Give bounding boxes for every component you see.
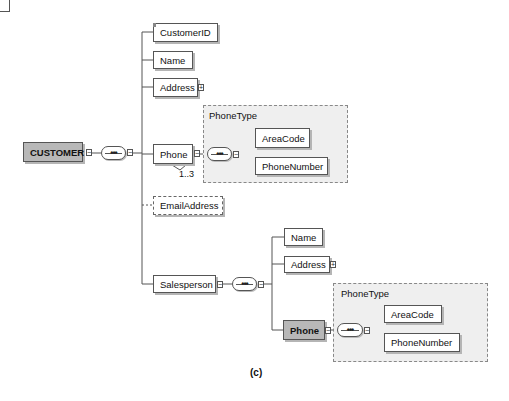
sequence-compositor[interactable]: ••• [207,147,232,161]
sequence-compositor[interactable]: ••• [232,277,257,291]
salesperson-phone-element[interactable]: Phone [283,320,325,340]
name-label: Name [160,55,185,66]
collapse-icon[interactable]: − [325,327,331,334]
phonenumber-label: PhoneNumber [262,161,323,172]
collapse-icon[interactable]: − [217,281,223,288]
emailaddress-element[interactable]: EmailAddress [153,196,223,215]
expand-icon[interactable]: + [330,261,336,268]
expand-icon[interactable]: + [198,84,204,91]
phone-label: Phone [160,149,187,160]
sequence-icon: ••• [347,327,353,333]
address-label: Address [160,82,195,93]
phonetype-label: PhoneType [341,288,389,299]
sequence-icon: ••• [241,281,247,287]
phone-element[interactable]: Phone [153,144,193,164]
emailaddress-label: EmailAddress [160,200,219,211]
salesperson-areacode-element[interactable]: AreaCode [384,305,442,323]
salesperson-phonenumber-element[interactable]: PhoneNumber [384,333,460,352]
customer-label: CUSTOMER [30,147,84,158]
collapse-icon[interactable]: − [364,327,370,334]
name-label: Name [291,232,316,243]
collapse-icon[interactable]: − [194,150,200,157]
collapse-icon[interactable]: − [258,281,264,288]
phonenumber-element[interactable]: PhoneNumber [255,157,328,175]
name-element[interactable]: Name [153,51,193,69]
customerid-label: CustomerID [160,27,211,38]
address-label: Address [291,259,326,270]
phonenumber-label: PhoneNumber [391,337,452,348]
customer-element[interactable]: CUSTOMER [23,142,83,162]
areacode-label: AreaCode [391,309,434,320]
sequence-compositor[interactable]: ••• [101,146,126,160]
areacode-element[interactable]: AreaCode [255,128,310,148]
customerid-element[interactable]: CustomerID [153,23,218,42]
phone-label: Phone [290,325,319,336]
sequence-compositor[interactable]: ••• [337,323,363,337]
key-icon [153,23,156,27]
collapse-icon[interactable]: − [127,149,133,156]
sequence-icon: ••• [110,150,116,156]
address-element[interactable]: Address [153,78,198,97]
collapse-icon[interactable]: − [233,151,239,158]
salesperson-label: Salesperson [160,279,213,290]
figure-caption: (c) [250,367,262,378]
salesperson-name-element[interactable]: Name [284,228,323,246]
collapse-icon[interactable]: − [86,149,92,156]
salesperson-address-element[interactable]: Address [284,256,330,273]
sequence-icon: ••• [216,151,222,157]
salesperson-element[interactable]: Salesperson [153,275,216,293]
phonetype-label: PhoneType [209,110,257,121]
areacode-label: AreaCode [262,133,305,144]
multiplicity-label: 1..3 [179,169,194,179]
